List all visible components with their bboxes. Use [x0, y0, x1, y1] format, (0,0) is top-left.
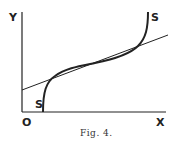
curve-start-label: S [35, 98, 43, 111]
s-curve [43, 12, 148, 112]
origin-label: O [22, 116, 31, 129]
x-axis-label: X [156, 116, 165, 129]
curve-end-label: S [151, 11, 159, 24]
y-axis-label: Y [8, 11, 18, 24]
figure-canvas: Y O X S S Fig. 4. [0, 0, 175, 144]
figure-caption: Fig. 4. [80, 128, 113, 138]
